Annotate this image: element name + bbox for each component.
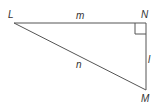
right-angle-marker [135,23,146,34]
vertex-label-m: M [141,93,150,104]
vertex-label-l: L [8,9,14,20]
vertex-label-n: N [141,9,149,20]
side-label-m: m [76,10,84,21]
side-label-l: l [148,54,151,65]
triangle-lmn [14,23,146,90]
triangle-diagram: L N M m l n [0,0,156,104]
side-label-n: n [76,59,82,70]
